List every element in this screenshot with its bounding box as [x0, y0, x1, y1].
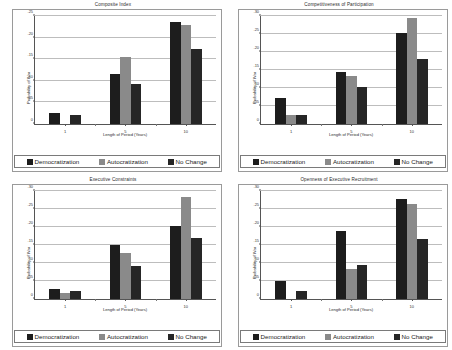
x-tick-mark [65, 299, 66, 301]
y-tick-label: .30 [254, 184, 259, 189]
y-tick-label: 0 [31, 117, 33, 122]
bar-democratization[interactable] [110, 245, 121, 299]
bar-autocratization[interactable] [120, 253, 131, 299]
bar-no-change[interactable] [70, 115, 81, 124]
bar-autocratization[interactable] [181, 25, 192, 124]
bar-no-change[interactable] [70, 291, 81, 299]
bar-no-change[interactable] [417, 59, 428, 124]
y-tick-label: .25 [254, 202, 259, 207]
legend-item-autocratization[interactable]: Autocratization [99, 333, 147, 340]
x-tick-mark [291, 299, 292, 301]
legend-item-democratization[interactable]: Democratization [253, 333, 305, 340]
bar-group: 1 [261, 16, 321, 124]
bar-no-change[interactable] [417, 239, 428, 299]
chart-panel-composite-index: Composite Index Probability of War 0.05.… [0, 0, 226, 175]
y-tick-label: .15 [28, 52, 33, 57]
bar-autocratization[interactable] [346, 76, 357, 124]
legend-item-autocratization[interactable]: Autocratization [325, 333, 373, 340]
x-tick-mark [351, 124, 352, 126]
x-tick-mark [186, 124, 187, 126]
bar-autocratization[interactable] [181, 197, 192, 299]
bar-no-change[interactable] [357, 87, 368, 124]
bar-autocratization[interactable] [407, 204, 418, 299]
legend-swatch-icon [325, 159, 331, 165]
bar-autocratization[interactable] [346, 269, 357, 299]
bar-democratization[interactable] [110, 74, 121, 124]
y-tick-label: .25 [28, 9, 33, 14]
y-tick-label: .20 [28, 220, 33, 225]
bar-no-change[interactable] [191, 238, 202, 299]
chart-panel-openness-of-executive-recruitment: Openness of Executive Recruitment Probab… [226, 175, 452, 350]
bar-democratization[interactable] [336, 72, 347, 124]
x-category-separator [382, 299, 383, 301]
legend-item-no-change[interactable]: No Change [168, 158, 207, 165]
bar-autocratization[interactable] [407, 18, 418, 124]
legend-label: Autocratization [107, 333, 148, 340]
legend-item-autocratization[interactable]: Autocratization [99, 158, 147, 165]
bar-democratization[interactable] [396, 199, 407, 299]
x-category-separator [95, 124, 96, 126]
bar-democratization[interactable] [49, 113, 60, 124]
bar-democratization[interactable] [170, 226, 181, 299]
legend-swatch-icon [99, 334, 105, 340]
bar-democratization[interactable] [275, 281, 286, 299]
y-tick-label: .20 [254, 220, 259, 225]
legend-label: Autocratization [333, 158, 374, 165]
chart-title: Composite Index [0, 2, 226, 7]
y-tick-label: .20 [28, 30, 33, 35]
legend-swatch-icon [394, 334, 400, 340]
y-tick-label: 0 [257, 292, 259, 297]
y-tick-label: .15 [254, 238, 259, 243]
bar-no-change[interactable] [131, 266, 142, 299]
y-tick-label: .05 [254, 274, 259, 279]
y-tick-label: .20 [254, 45, 259, 50]
legend-item-no-change[interactable]: No Change [168, 333, 207, 340]
bar-groups: 1510 [261, 191, 442, 299]
x-category-separator [382, 124, 383, 126]
bar-group: 5 [321, 16, 381, 124]
bar-democratization[interactable] [49, 289, 60, 299]
legend-label: No Change [176, 158, 207, 165]
bar-no-change[interactable] [191, 49, 202, 124]
bar-group: 5 [321, 191, 381, 299]
bar-no-change[interactable] [296, 115, 307, 124]
bar-democratization[interactable] [275, 98, 286, 124]
x-category-separator [156, 124, 157, 126]
legend-item-democratization[interactable]: Democratization [27, 333, 79, 340]
bar-autocratization[interactable] [120, 57, 131, 124]
bar-no-change[interactable] [357, 265, 368, 299]
y-tick-label: .10 [28, 73, 33, 78]
legend-item-democratization[interactable]: Democratization [253, 158, 305, 165]
x-tick-mark [186, 299, 187, 301]
legend-swatch-icon [325, 334, 331, 340]
legend-swatch-icon [27, 334, 33, 340]
bar-groups: 1510 [261, 16, 442, 124]
chart-title: Executive Constraints [0, 177, 226, 182]
x-tick-mark [291, 124, 292, 126]
legend-item-democratization[interactable]: Democratization [27, 158, 79, 165]
bar-no-change[interactable] [131, 84, 142, 124]
y-tick-label: .10 [254, 256, 259, 261]
plot-area: 0.05.10.15.20.25.301510 [260, 191, 442, 300]
x-axis-title: Length of Period (Years) [34, 132, 216, 137]
y-tick-label: .30 [28, 184, 33, 189]
bar-group: 1 [35, 191, 95, 299]
bar-democratization[interactable] [170, 22, 181, 124]
legend-item-no-change[interactable]: No Change [394, 158, 433, 165]
bar-group: 10 [156, 16, 216, 124]
x-axis-title: Length of Period (Years) [260, 307, 442, 312]
chart-title: Competitiveness of Participation [226, 2, 452, 7]
legend-label: Democratization [261, 158, 306, 165]
bar-no-change[interactable] [296, 291, 307, 299]
bar-autocratization[interactable] [286, 115, 297, 124]
bar-democratization[interactable] [396, 33, 407, 124]
legend-item-no-change[interactable]: No Change [394, 333, 433, 340]
legend-swatch-icon [168, 334, 174, 340]
bar-democratization[interactable] [336, 231, 347, 299]
legend-swatch-icon [253, 334, 259, 340]
legend-label: No Change [402, 333, 433, 340]
y-tick-label: .10 [254, 81, 259, 86]
legend-item-autocratization[interactable]: Autocratization [325, 158, 373, 165]
bar-group: 5 [95, 191, 155, 299]
legend-swatch-icon [27, 159, 33, 165]
